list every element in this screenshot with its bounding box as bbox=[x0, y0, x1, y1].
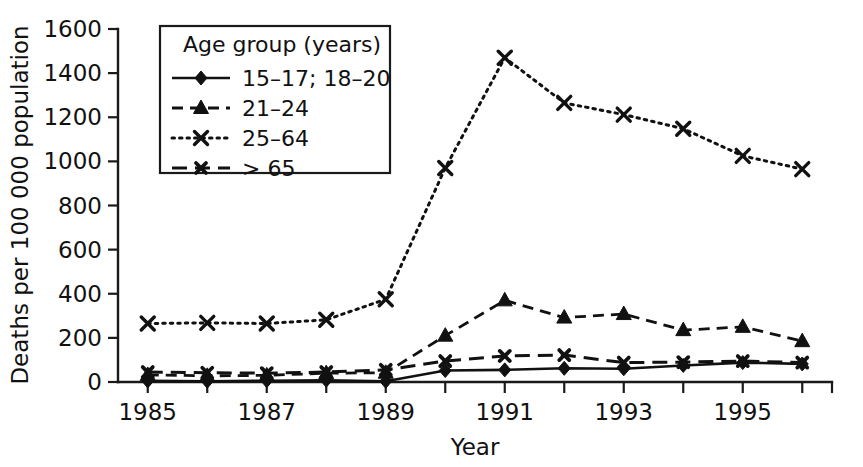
legend-item-label: 25–64 bbox=[242, 126, 309, 151]
data-point-marker bbox=[617, 108, 630, 121]
legend-title: Age group (years) bbox=[183, 32, 381, 57]
y-axis-title: Deaths per 100 000 population bbox=[7, 25, 33, 384]
data-point-marker bbox=[558, 361, 570, 375]
data-point-marker bbox=[438, 328, 453, 342]
y-tick-label: 1600 bbox=[43, 16, 102, 42]
x-tick-label: 1991 bbox=[475, 399, 534, 425]
series-2 bbox=[140, 292, 810, 381]
y-tick-label: 1200 bbox=[43, 104, 102, 130]
x-axis-tick-group: 198519871989199119931995 bbox=[118, 382, 832, 425]
data-point-marker bbox=[379, 293, 392, 306]
x-axis-title: Year bbox=[450, 434, 500, 460]
legend-item-label: 15–17; 18–20 bbox=[242, 66, 390, 91]
y-tick-label: 1000 bbox=[43, 148, 102, 174]
data-point-marker bbox=[439, 161, 452, 174]
legend-item-label: 21–24 bbox=[242, 96, 309, 121]
data-point-marker bbox=[677, 122, 690, 135]
y-tick-label: 200 bbox=[58, 325, 102, 351]
data-point-marker bbox=[735, 319, 750, 333]
x-tick-label: 1995 bbox=[713, 399, 772, 425]
data-point-marker bbox=[736, 149, 749, 162]
y-tick-label: 400 bbox=[58, 281, 102, 307]
x-tick-label: 1987 bbox=[237, 399, 296, 425]
data-point-marker bbox=[499, 363, 511, 377]
data-point-marker bbox=[796, 163, 809, 176]
data-point-marker bbox=[558, 96, 571, 109]
y-axis-tick-group: 02004006008001000120014001600 bbox=[43, 16, 118, 395]
data-point-marker bbox=[497, 292, 512, 306]
legend-item-label: > 65 bbox=[242, 156, 295, 181]
y-tick-label: 600 bbox=[58, 237, 102, 263]
x-tick-label: 1989 bbox=[356, 399, 415, 425]
chart-legend: Age group (years) 15–17; 18–2021–2425–64… bbox=[160, 26, 390, 181]
data-point-marker bbox=[141, 317, 154, 330]
x-tick-label: 1985 bbox=[118, 399, 177, 425]
y-tick-label: 1400 bbox=[43, 60, 102, 86]
line-chart: 02004006008001000120014001600 1985198719… bbox=[0, 0, 863, 467]
x-tick-label: 1993 bbox=[594, 399, 653, 425]
data-point-marker bbox=[498, 51, 511, 64]
y-tick-label: 0 bbox=[87, 369, 102, 395]
y-tick-label: 800 bbox=[58, 193, 102, 219]
data-point-marker bbox=[616, 306, 631, 320]
chart-container: 02004006008001000120014001600 1985198719… bbox=[0, 0, 863, 467]
